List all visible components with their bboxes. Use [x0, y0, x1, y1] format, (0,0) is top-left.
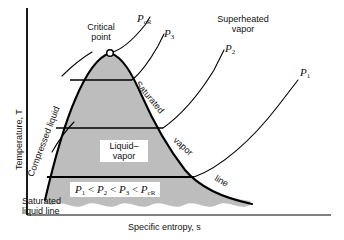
liquid-vapor-label: Liquid– vapor: [100, 140, 148, 162]
superheated-vapor-label: Superheated vapor: [200, 14, 286, 34]
y-axis-label: Temperature, T: [14, 109, 24, 170]
isobar-label-p3: P3: [164, 27, 174, 40]
isobar-curve-p1: [194, 80, 298, 177]
critical-point-marker: [107, 50, 114, 57]
saturated-liquid-line-label: Saturated liquid line: [22, 196, 61, 216]
critical-point-label: Critical point: [76, 22, 126, 42]
isobar-label-p2: P2: [225, 42, 235, 55]
pressure-inequality-label: P1 < P2 < P3 < PcR: [70, 182, 160, 197]
ts-diagram-figure: Temperature, T Specific entropy, s Criti…: [0, 0, 344, 240]
isobar-label-p1: P1: [300, 66, 310, 79]
isobar-label-pcr: PcR: [137, 12, 152, 25]
isobar-curve-p2: [163, 50, 224, 128]
compressed-liquid-tangent-upper: [62, 52, 92, 76]
isobar-curve-p3: [132, 34, 164, 80]
x-axis-label: Specific entropy, s: [128, 222, 201, 232]
